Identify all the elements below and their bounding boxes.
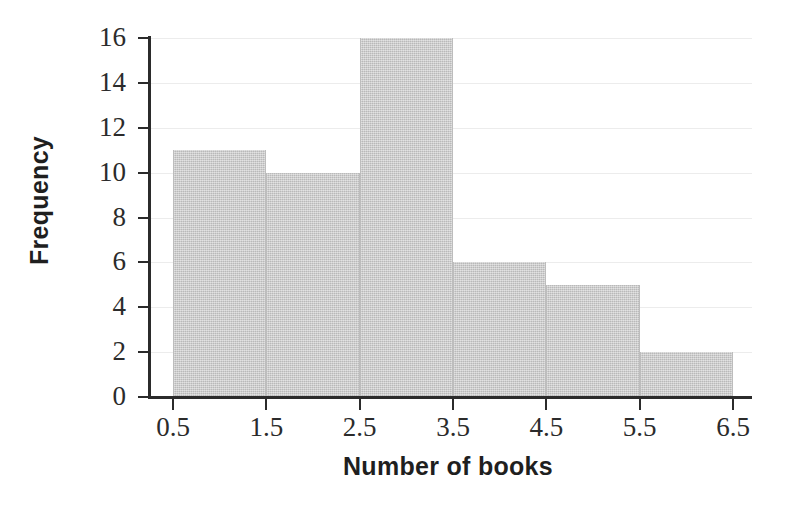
x-axis-tick-label: 4.5 bbox=[506, 414, 586, 441]
y-axis-title-text: Frequency bbox=[26, 135, 55, 264]
x-axis-tick bbox=[452, 398, 454, 410]
y-axis-tick-label: 16 bbox=[60, 24, 126, 51]
histogram-bar bbox=[453, 262, 546, 397]
y-axis-tick-label: 0 bbox=[60, 383, 126, 410]
y-axis-tick-label: 6 bbox=[60, 248, 126, 275]
y-axis-tick-label: 12 bbox=[60, 114, 126, 141]
y-axis-tick-label: 10 bbox=[60, 159, 126, 186]
x-axis-tick bbox=[359, 398, 361, 410]
y-axis-tick bbox=[138, 351, 149, 353]
histogram-bar bbox=[266, 173, 359, 397]
y-axis-tick-label: 2 bbox=[60, 338, 126, 365]
y-axis-tick-label: 8 bbox=[60, 204, 126, 231]
x-axis-tick bbox=[545, 398, 547, 410]
histogram-bar bbox=[640, 352, 733, 397]
y-axis-tick bbox=[138, 172, 149, 174]
x-axis-tick bbox=[265, 398, 267, 410]
x-axis-tick-label: 6.5 bbox=[693, 414, 773, 441]
histogram-bar bbox=[360, 38, 453, 397]
y-axis-tick-label: 4 bbox=[60, 293, 126, 320]
x-axis-tick bbox=[172, 398, 174, 410]
x-axis-tick-label: 1.5 bbox=[226, 414, 306, 441]
x-axis-tick-label: 0.5 bbox=[133, 414, 213, 441]
x-axis-title: Number of books bbox=[148, 452, 748, 481]
x-axis-tick bbox=[732, 398, 734, 410]
x-axis-tick-label: 3.5 bbox=[413, 414, 493, 441]
x-axis-spine bbox=[148, 396, 752, 399]
y-axis-tick bbox=[138, 306, 149, 308]
y-axis-tick bbox=[138, 261, 149, 263]
y-axis-tick bbox=[138, 127, 149, 129]
y-axis-tick bbox=[138, 37, 149, 39]
y-axis-tick bbox=[138, 82, 149, 84]
y-axis-tick bbox=[138, 217, 149, 219]
x-axis-tick-label: 2.5 bbox=[320, 414, 400, 441]
histogram-bar bbox=[173, 150, 266, 397]
histogram-bar bbox=[546, 285, 639, 397]
y-axis-tick-label: 14 bbox=[60, 69, 126, 96]
histogram-figure: Frequency 0246810121416 0.51.52.53.54.55… bbox=[0, 0, 796, 514]
y-axis-tick bbox=[138, 396, 149, 398]
plot-area bbox=[148, 38, 752, 397]
bars-group bbox=[173, 38, 733, 397]
x-axis-tick bbox=[639, 398, 641, 410]
x-axis-tick-label: 5.5 bbox=[600, 414, 680, 441]
